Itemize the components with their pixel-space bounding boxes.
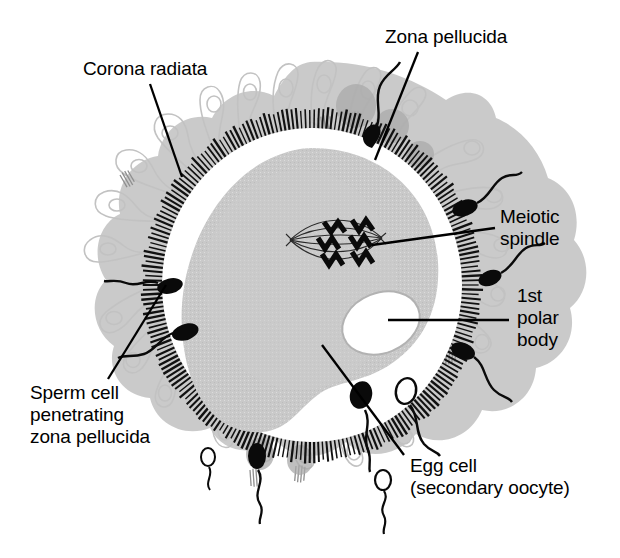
zona-hatch-mark	[305, 109, 306, 128]
label-zona-pellucida: Zona pellucida	[385, 26, 507, 48]
label-egg-cell: Egg cell (secondary oocyte)	[410, 455, 570, 499]
zona-hatch-mark	[462, 275, 483, 276]
label-meiotic-spindle: Meiotic spindle	[500, 206, 560, 250]
zona-hatch-mark	[318, 108, 319, 128]
zona-hatch-mark	[318, 442, 319, 462]
zona-hatch-mark	[462, 289, 483, 290]
label-sperm-cell-penetrating: Sperm cell penetrating zona pellucida	[30, 382, 150, 448]
sperm-free-8	[201, 448, 215, 490]
cytoplasm-highlight	[204, 170, 396, 390]
zona-hatch-mark	[462, 280, 481, 281]
zona-hatch-mark	[305, 442, 306, 464]
oocyte-fertilization-figure: Corona radiata Zona pellucida Meiotic sp…	[0, 0, 620, 558]
zona-hatch-mark	[462, 294, 479, 295]
sperm-free-6	[375, 470, 391, 534]
label-corona-radiata: Corona radiata	[83, 58, 207, 80]
label-first-polar-body: 1st polar body	[517, 285, 559, 351]
zona-hatch-mark	[145, 275, 162, 276]
